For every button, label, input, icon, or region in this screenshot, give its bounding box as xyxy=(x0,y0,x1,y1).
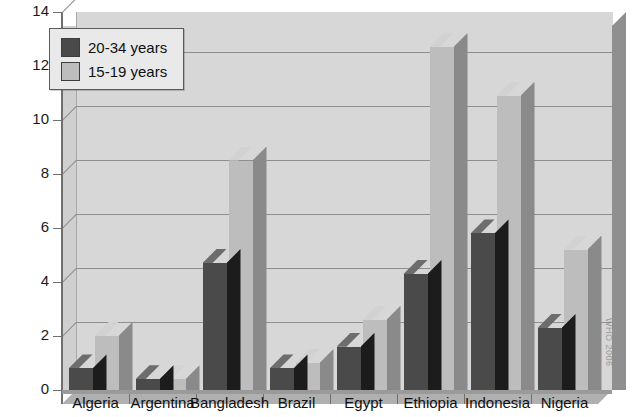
bar-face xyxy=(471,233,495,390)
y-tick xyxy=(53,12,61,13)
bar-brazil-series-0 xyxy=(270,354,294,390)
clipped-title-glyph: • xyxy=(36,0,156,5)
bar-top-3d xyxy=(497,82,521,96)
bar-face xyxy=(69,368,93,390)
y-tick xyxy=(53,282,61,283)
y-tick xyxy=(53,336,61,337)
bar-argentina-series-0 xyxy=(136,365,160,390)
y-tick-label: 4 xyxy=(0,272,49,289)
y-tick-label: 0 xyxy=(0,380,49,397)
bar-top-3d xyxy=(270,354,294,368)
bar-top-3d xyxy=(136,365,160,379)
y-tick xyxy=(53,228,61,229)
bar-bangladesh-series-0 xyxy=(203,249,227,390)
bar-face xyxy=(538,328,562,390)
y-tick xyxy=(53,174,61,175)
bar-top-3d xyxy=(471,219,495,233)
bar-top-3d xyxy=(95,322,119,336)
y-tick xyxy=(53,120,61,121)
bar-side-3d xyxy=(588,236,602,390)
bar-face xyxy=(404,274,428,390)
bar-face xyxy=(136,379,160,390)
y-tick-label: 12 xyxy=(0,56,49,73)
legend-label: 15-19 years xyxy=(88,63,167,80)
bar-top-3d xyxy=(538,314,562,328)
y-tick xyxy=(53,390,61,391)
bar-side-3d xyxy=(253,147,267,391)
bar-face xyxy=(203,263,227,390)
bar-egypt-series-0 xyxy=(337,333,361,390)
bar-top-3d xyxy=(564,236,588,250)
bar-side-3d xyxy=(387,306,401,390)
bar-algeria-series-0 xyxy=(69,354,93,390)
x-axis-label-nigeria: Nigeria xyxy=(521,394,608,411)
bar-side-3d xyxy=(495,219,509,390)
chart-right-wall-3d xyxy=(612,12,626,390)
y-tick-label: 2 xyxy=(0,326,49,343)
bar-face xyxy=(270,368,294,390)
bar-top-3d xyxy=(69,354,93,368)
y-tick-label: 6 xyxy=(0,218,49,235)
watermark-text: WHO 2006 xyxy=(604,318,614,367)
bar-top-3d xyxy=(430,33,454,47)
bar-nigeria-series-0 xyxy=(538,314,562,390)
bar-top-3d xyxy=(337,333,361,347)
y-tick-label: 8 xyxy=(0,164,49,181)
bar-side-3d xyxy=(227,249,241,390)
bar-side-3d xyxy=(521,82,535,390)
y-tick-label: 10 xyxy=(0,110,49,127)
legend-entry-20-34: 20-34 years xyxy=(61,36,167,58)
bar-indonesia-series-0 xyxy=(471,219,495,390)
bar-side-3d xyxy=(454,33,468,390)
bar-ethiopia-series-0 xyxy=(404,260,428,390)
legend-label: 20-34 years xyxy=(88,39,167,56)
bar-top-3d xyxy=(229,147,253,161)
bar-top-3d xyxy=(363,306,387,320)
bar-side-3d xyxy=(428,260,442,390)
legend-swatch-icon xyxy=(61,38,80,57)
bar-chart: • 02468101214 AlgeriaArgentinaBangladesh… xyxy=(0,0,634,417)
legend-entry-15-19: 15-19 years xyxy=(61,60,167,82)
bar-top-3d xyxy=(296,349,320,363)
y-tick-label: 14 xyxy=(0,2,49,19)
legend: 20-34 years 15-19 years xyxy=(49,28,184,90)
bar-top-3d xyxy=(404,260,428,274)
bar-face xyxy=(337,347,361,390)
legend-swatch-icon xyxy=(61,62,80,81)
bar-top-3d xyxy=(203,249,227,263)
